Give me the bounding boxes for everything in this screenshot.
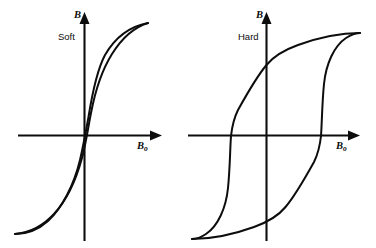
- soft-x-axis-label-main: B: [137, 140, 144, 151]
- hard-x-axis-label-main: B: [336, 140, 343, 151]
- hard-x-axis-label: Bo: [336, 141, 347, 152]
- arrow-right-icon: [150, 131, 162, 141]
- soft-x-axis-label-subscript: o: [144, 144, 148, 153]
- hysteresis-figure: B Bo Soft B Bo Hard: [0, 0, 376, 248]
- hard-y-axis-label: B: [256, 10, 263, 21]
- soft-y-axis-label: B: [74, 10, 81, 21]
- soft-loop-plot: [0, 0, 188, 248]
- hard-loop-plot: [188, 0, 376, 248]
- soft-loop-ascending-branch: [15, 23, 148, 234]
- soft-material-label: Soft: [58, 32, 75, 42]
- hard-x-axis-label-subscript: o: [343, 144, 347, 153]
- panel-hard-material: B Bo Hard: [188, 0, 376, 248]
- hard-material-label: Hard: [238, 32, 259, 42]
- soft-x-axis-label: Bo: [137, 141, 148, 152]
- soft-loop-descending-branch: [15, 23, 148, 234]
- arrow-right-icon: [348, 131, 360, 141]
- panel-soft-material: B Bo Soft: [0, 0, 188, 248]
